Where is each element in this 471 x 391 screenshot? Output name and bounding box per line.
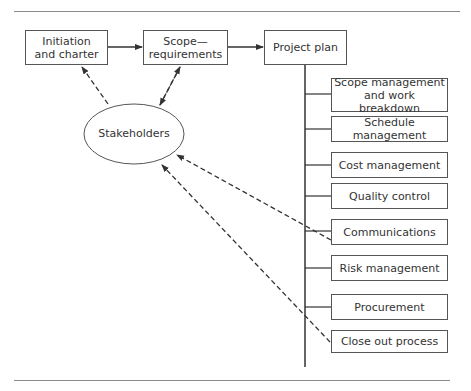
plan-item-cost-management: Cost management	[331, 152, 448, 178]
plan-item-quality-control: Quality control	[331, 183, 448, 209]
plan-item-risk-management: Risk management	[331, 255, 448, 281]
plan-item-close-out: Close out process	[331, 330, 448, 353]
plan-item-scope-management: Scope management and work breakdown	[331, 78, 448, 112]
plan-item-communications: Communications	[331, 219, 448, 245]
plan-item-procurement: Procurement	[331, 294, 448, 320]
project-plan-box: Project plan	[264, 30, 347, 65]
plan-item-schedule-management: Schedule management	[331, 116, 448, 142]
stakeholders-node: Stakeholders	[84, 127, 184, 140]
scope-requirements-box: Scope— requirements	[143, 30, 228, 65]
initiation-box: Initiation and charter	[25, 30, 108, 65]
